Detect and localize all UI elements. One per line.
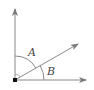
angle-b-label: B	[46, 65, 55, 78]
angle-b-arc	[40, 66, 44, 80]
vertex-point	[13, 78, 17, 82]
angle-diagram: A B	[0, 0, 94, 90]
small-arc	[15, 74, 20, 77]
angle-a-label: A	[27, 46, 36, 59]
